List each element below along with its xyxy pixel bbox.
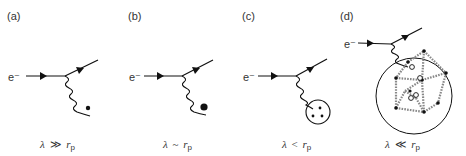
quark-dot bbox=[321, 115, 324, 118]
proton-circle bbox=[306, 100, 330, 124]
photon-wavy-line bbox=[296, 76, 313, 109]
panel-label: (c) bbox=[242, 10, 255, 22]
large-target-dot bbox=[200, 103, 207, 110]
panel-label: (b) bbox=[128, 10, 141, 22]
panel-d: (d) e⁻ bbox=[340, 10, 452, 152]
caption-c: λ < rp bbox=[281, 138, 312, 152]
arrow-icon bbox=[367, 40, 374, 48]
electron-label: e⁻ bbox=[344, 38, 356, 50]
panel-label: (d) bbox=[340, 10, 353, 22]
photon-wavy-line bbox=[65, 76, 90, 116]
arrow-icon bbox=[271, 72, 278, 80]
arrow-icon bbox=[157, 72, 164, 80]
arrow-icon bbox=[40, 72, 47, 80]
caption-d: λ ≪ rp bbox=[384, 138, 421, 152]
caption-a: λ ≫ rp bbox=[39, 138, 76, 152]
panel-a: (a) e⁻ λ ≫ rp bbox=[7, 10, 98, 152]
quark-dot bbox=[319, 107, 322, 110]
panel-b: (b) e⁻ λ ~ rp bbox=[128, 10, 213, 152]
panel-c: (c) e⁻ λ < rp bbox=[242, 10, 330, 152]
feynman-diagram-figure: (a) e⁻ λ ≫ rp (b) e⁻ λ ~ rp (c) e⁻ bbox=[0, 0, 466, 156]
quark-dot bbox=[312, 115, 315, 118]
caption-b: λ ~ rp bbox=[162, 138, 193, 152]
electron-label: e⁻ bbox=[243, 71, 255, 83]
electron-label: e⁻ bbox=[8, 71, 20, 83]
incoming-electron-line bbox=[358, 43, 391, 44]
point-target-dot bbox=[86, 106, 90, 110]
electron-label: e⁻ bbox=[129, 71, 141, 83]
panel-label: (a) bbox=[7, 10, 20, 22]
